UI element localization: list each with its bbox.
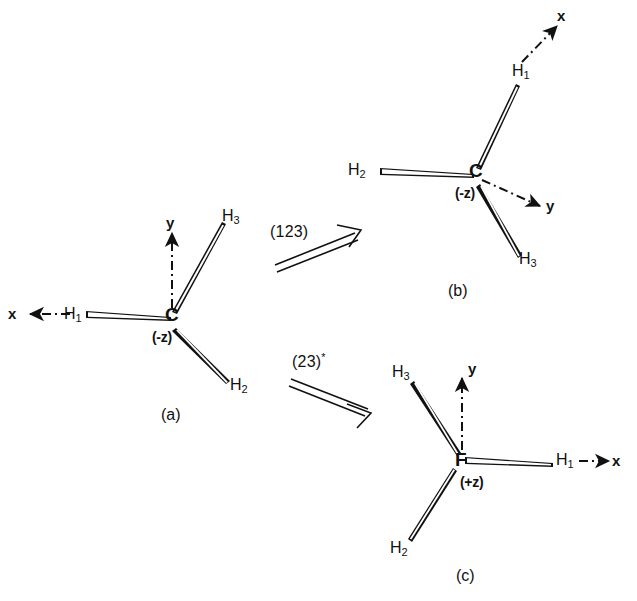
atom-b-h1-symbol: H [512,62,524,79]
figure-canvas: x y C (-z) H1 H2 H3 (a) (123) (23)* x y … [0,0,637,601]
atom-c-h3-symbol: H [392,363,404,380]
atom-a-h2-symbol: H [230,376,242,393]
atom-b-h3: H3 [519,251,537,269]
atom-b-h2-index: 2 [360,168,366,180]
operation-label-23: (23) [292,353,321,370]
atom-a-h1: H1 [64,306,82,324]
axis-label-c-y: y [468,361,476,376]
atom-c-h2: H2 [390,540,408,558]
structure-a [30,222,230,384]
axis-label-a-y: y [166,215,174,230]
atom-c-center: F [455,450,467,469]
atom-a-z-label: (-z) [152,330,172,344]
atom-b-h3-symbol: H [519,250,531,267]
atom-b-center: C [469,161,483,180]
atom-b-h2: H2 [348,162,366,180]
bond-a-h3 [172,222,226,314]
atom-b-h1-index: 1 [524,69,530,81]
bond-a-h2 [172,328,230,384]
bond-c-h1 [465,457,553,467]
atom-a-h1-index: 1 [76,312,82,324]
bond-b-h2 [380,168,474,178]
axis-label-b-y: y [546,198,554,213]
caption-c: (c) [456,568,475,584]
atom-c-h1-symbol: H [556,451,568,468]
axis-label-c-x: x [612,453,620,468]
atom-b-z-label: (-z) [455,186,475,200]
caption-b: (b) [448,283,468,299]
operation-label-star: * [321,351,325,363]
atom-c-h3: H3 [392,364,410,382]
atom-b-h2-symbol: H [348,161,360,178]
bond-b-h3 [476,184,522,258]
atom-b-h1: H1 [512,63,530,81]
bond-a-h1 [86,311,171,321]
atom-c-h3-index: 3 [404,370,410,382]
bond-c-h3 [410,381,461,456]
atom-a-h3-index: 3 [234,214,240,226]
operation-label-123: (123) [270,224,308,240]
atom-c-h2-symbol: H [390,539,402,556]
atom-a-h1-symbol: H [64,305,76,322]
atom-b-h3-index: 3 [531,257,537,269]
caption-a: (a) [161,407,181,423]
atom-c-z-label: (+z) [460,475,483,489]
structure-c [408,378,609,542]
bond-b-h1 [476,84,520,170]
bond-c-h2 [408,468,457,542]
atom-c-h1-index: 1 [568,458,574,470]
atom-a-h2: H2 [230,377,248,395]
axis-b-x-line [522,26,557,62]
atom-a-center: C [165,305,179,324]
atom-a-h2-index: 2 [242,383,248,395]
axis-label-b-x: x [557,8,565,23]
operation-arrow-23-star [289,379,371,428]
atom-a-h3-symbol: H [222,207,234,224]
figure-vector-layer [0,0,637,601]
atom-a-h3: H3 [222,208,240,226]
operation-label-23-star: (23)* [292,352,326,370]
atom-c-h2-index: 2 [402,546,408,558]
atom-c-h1: H1 [556,452,574,470]
axis-label-a-x: x [8,306,16,321]
structure-b [380,26,557,258]
